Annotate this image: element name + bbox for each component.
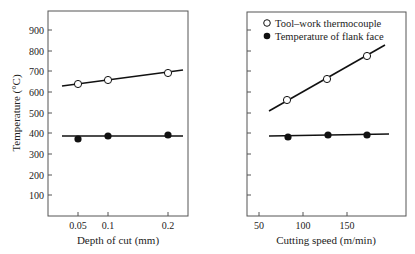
left-filled-point-3 [164,131,171,138]
right-open-point-3 [363,52,370,59]
right-filled-point-3 [363,131,370,138]
left-panel: 900 800 700 600 500 400 300 200 100 Temp… [10,11,188,247]
left-plot-frame [48,11,188,216]
legend-open-circle-icon [264,20,271,27]
x-tick-0-1: 0.1 [102,220,115,231]
right-filled-point-2 [324,131,331,138]
x-tick-0-2: 0.2 [162,220,175,231]
legend-label-filled: Temperature of flank face [275,31,384,42]
x-tick-150: 150 [340,220,355,231]
legend-filled-circle-icon [264,33,271,40]
legend-label-open: Tool–work thermocouple [275,18,382,29]
left-y-axis-title: Temperature (°C) [10,74,23,152]
y-tick-300: 300 [29,149,44,160]
right-x-axis-title: Cutting speed (m/min) [276,234,376,247]
right-x-tick-labels: 50 100 150 [254,220,355,231]
left-filled-point-2 [104,132,111,139]
x-tick-50: 50 [254,220,264,231]
y-tick-100: 100 [29,190,44,201]
y-tick-500: 500 [29,108,44,119]
left-x-axis [78,212,168,216]
legend: Tool–work thermocouple Temperature of fl… [264,18,384,42]
right-x-axis [259,212,347,216]
y-tick-400: 400 [29,128,44,139]
left-open-point-2 [104,76,111,83]
y-tick-600: 600 [29,87,44,98]
right-panel: 50 100 150 Cutting speed (m/min) Tool–wo… [247,12,406,247]
left-x-axis-title: Depth of cut (mm) [77,234,160,247]
left-open-point-3 [164,69,171,76]
left-open-point-1 [74,80,81,87]
right-open-point-2 [323,75,330,82]
right-filled-point-1 [284,133,291,140]
right-open-point-1 [283,96,290,103]
y-tick-800: 800 [29,46,44,57]
y-tick-700: 700 [29,66,44,77]
left-y-axis [48,30,52,195]
right-plot-frame [247,12,406,216]
left-y-tick-labels: 900 800 700 600 500 400 300 200 100 [29,25,44,201]
right-y-axis [247,30,251,195]
left-filled-point-1 [74,135,81,142]
x-tick-100: 100 [296,220,311,231]
left-x-tick-labels: 0.05 0.1 0.2 [69,220,174,231]
x-tick-0-05: 0.05 [69,220,87,231]
y-tick-200: 200 [29,170,44,181]
chart-figure: 900 800 700 600 500 400 300 200 100 Temp… [0,0,415,254]
y-tick-900: 900 [29,25,44,36]
